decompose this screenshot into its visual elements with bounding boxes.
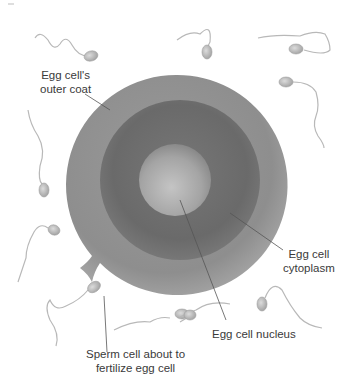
sperm-cell [18, 223, 61, 282]
label-outer-coat: Egg cell's outer coat [40, 68, 91, 96]
sperm-cell-fertilizing [47, 279, 103, 346]
leader-line-sperm [104, 296, 107, 352]
label-sperm-line2: fertilize egg cell [86, 361, 185, 375]
sperm-cell [258, 32, 330, 54]
egg-cell [66, 75, 288, 295]
egg-cell-diagram: Egg cell's outer coat Egg cell cytoplasm… [0, 0, 354, 382]
sperm-cell [28, 110, 49, 197]
sperm-cell [114, 309, 189, 330]
sperm-cell [35, 34, 99, 62]
diagram-illustration [0, 0, 354, 382]
label-cytoplasm: Egg cell cytoplasm [283, 247, 335, 275]
sperm-cell [177, 30, 212, 60]
label-sperm-cell: Sperm cell about to fertilize egg cell [86, 347, 185, 375]
label-cytoplasm-line1: Egg cell [283, 247, 335, 261]
label-sperm-line1: Sperm cell about to [86, 347, 185, 361]
nucleus [139, 144, 211, 216]
label-outer-coat-line2: outer coat [40, 82, 91, 96]
label-nucleus: Egg cell nucleus [212, 327, 296, 341]
sperm-cell [257, 286, 322, 328]
label-cytoplasm-line2: cytoplasm [283, 261, 335, 275]
sperm-cell [279, 77, 324, 148]
label-nucleus-line1: Egg cell nucleus [212, 327, 296, 341]
label-outer-coat-line1: Egg cell's [40, 68, 91, 82]
